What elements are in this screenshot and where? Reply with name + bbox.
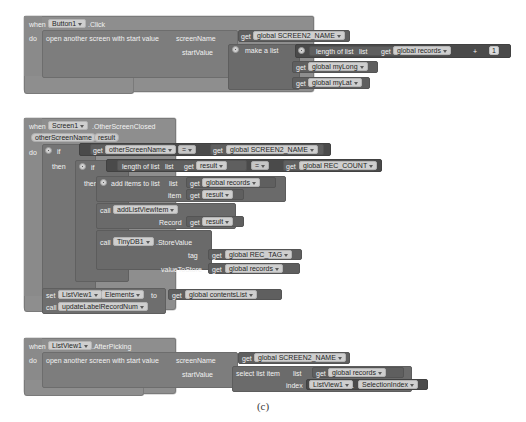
- block2-addlistviewitem-result-label: result: [206, 217, 223, 226]
- block2-set-to-label: to: [151, 291, 157, 300]
- mutator-gear-icon[interactable]: [298, 47, 305, 54]
- block1-when-label: when: [29, 20, 46, 29]
- block3-records-dropdown[interactable]: global records: [328, 368, 386, 377]
- block1-component-dropdown[interactable]: Button1: [48, 19, 86, 28]
- block2-when-label: when: [29, 122, 46, 131]
- block2-screen2name-dropdown[interactable]: global SCREEN2_NAME: [226, 145, 318, 154]
- block2-update-call-label: call: [46, 303, 57, 312]
- block2-contentslist-dropdown[interactable]: global contentsList: [185, 290, 257, 299]
- block2-additems-records-dropdown[interactable]: global records: [202, 178, 260, 187]
- mutator-gear-icon[interactable]: [232, 46, 239, 53]
- block3-screen2name-get-label: get: [242, 354, 252, 363]
- block1-component-label: Button1: [52, 19, 76, 28]
- block3-event-label: .AfterPicking: [92, 342, 131, 351]
- block2-addlistviewitem-result-dropdown[interactable]: result: [202, 217, 233, 226]
- block2-tinydb-call-label: call: [100, 238, 111, 247]
- block2-call-addlistviewitem-label: call: [100, 206, 111, 215]
- chevron-down-icon: [310, 149, 314, 152]
- mutator-gear-icon[interactable]: [79, 163, 86, 170]
- block2-otherscreenname-dropdown[interactable]: otherScreenName: [105, 145, 176, 154]
- block3-component-dropdown[interactable]: ListView1: [48, 341, 92, 350]
- block1-mylong-dropdown[interactable]: global myLong: [308, 62, 368, 71]
- chevron-down-icon: [170, 209, 174, 212]
- chevron-down-icon: [261, 165, 265, 168]
- block1-mylat-label: global myLat: [312, 78, 352, 87]
- chevron-down-icon: [360, 66, 364, 69]
- block2-param-result[interactable]: result: [94, 133, 119, 142]
- chevron-down-icon: [338, 357, 342, 360]
- block2-set-component-dropdown[interactable]: ListView1: [58, 290, 102, 299]
- block2-tinydb-component-label: TinyDB1: [117, 237, 144, 246]
- block3-statement-label: open another screen with start value: [46, 356, 159, 365]
- block3-records-label: global records: [332, 368, 376, 377]
- block2-set-property-dropdown[interactable]: Elements: [101, 290, 144, 299]
- mutator-gear-icon[interactable]: [45, 147, 52, 154]
- block1-records-label: global records: [397, 46, 441, 55]
- block2-reccount-get-label: get: [286, 162, 296, 171]
- block1-records-dropdown[interactable]: global records: [393, 46, 451, 55]
- chevron-down-icon: [140, 306, 144, 309]
- block1-mylat-dropdown[interactable]: global myLat: [308, 78, 362, 87]
- block2-component-dropdown[interactable]: Screen1: [48, 121, 88, 130]
- block2-otherscreenname-get-label: get: [93, 146, 103, 155]
- block2-result-dropdown[interactable]: result: [196, 161, 227, 170]
- block2-screen2name-get-label: get: [213, 146, 223, 155]
- block2-tinydb-rectag-dropdown[interactable]: global REC_TAG: [225, 250, 292, 259]
- block2-outer-if-label: if: [57, 147, 61, 156]
- block2-set-component-label: ListView1: [62, 290, 92, 299]
- block2-tinydb-records-label: global records: [229, 264, 273, 273]
- chevron-down-icon: [337, 35, 341, 38]
- block1-mylat-get-label: get: [296, 79, 306, 88]
- block2-tinydb-records-get-label: get: [212, 265, 222, 274]
- block3-index-dot-label: .: [352, 381, 354, 390]
- block2-call-tinydb-storevalue-block[interactable]: [96, 230, 212, 270]
- block2-event-label: .OtherScreenClosed: [92, 122, 155, 131]
- block2-tinydb-component-dropdown[interactable]: TinyDB1: [113, 237, 154, 246]
- block2-addlistviewitem-name: addListViewItem: [117, 205, 168, 214]
- chevron-down-icon: [188, 149, 192, 152]
- chevron-down-icon: [443, 50, 447, 53]
- block2-reccount-dropdown[interactable]: global REC_COUNT: [299, 161, 377, 170]
- block2-result-get-label: get: [184, 162, 194, 171]
- block2-contentslist-get-label: get: [172, 291, 182, 300]
- block2-tinydb-tag-label: tag: [188, 251, 198, 260]
- block2-additems-result-dropdown[interactable]: result: [202, 190, 233, 199]
- block3-index-component-dropdown[interactable]: ListView1: [309, 380, 353, 389]
- block1-get-label: get: [241, 32, 251, 41]
- block3-screen2name-label: global SCREEN2_NAME: [258, 353, 336, 362]
- chevron-down-icon: [284, 254, 288, 257]
- block3-select-list-item-label: select list item: [236, 369, 280, 378]
- block2-cond1-operator-dropdown[interactable]: =: [178, 145, 196, 154]
- chevron-down-icon: [369, 165, 373, 168]
- chevron-down-icon: [378, 372, 382, 375]
- chevron-down-icon: [94, 294, 98, 297]
- chevron-down-icon: [252, 182, 256, 185]
- block2-screen2name-label: global SCREEN2_NAME: [230, 145, 308, 154]
- chevron-down-icon: [146, 241, 150, 244]
- block2-result-label: result: [200, 161, 217, 170]
- block2-addlistviewitem-dropdown[interactable]: addListViewItem: [113, 205, 178, 214]
- chevron-down-icon: [84, 345, 88, 348]
- block1-statement-label: open another screen with start value: [46, 34, 159, 43]
- block3-index-property-dropdown[interactable]: SelectionIndex: [358, 380, 418, 389]
- mutator-gear-icon[interactable]: [100, 179, 107, 186]
- block3-component-label: ListView1: [52, 341, 82, 350]
- block2-outer-then-label: then: [52, 162, 66, 171]
- chevron-down-icon: [345, 384, 349, 387]
- block2-otherscreenname-label: otherScreenName: [109, 145, 166, 154]
- block1-length-of-list-label: length of list: [316, 47, 353, 56]
- block2-tinydb-method-label: .StoreValue: [156, 238, 192, 247]
- block2-tinydb-records-dropdown[interactable]: global records: [225, 264, 283, 273]
- block2-inner-if-label: if: [91, 163, 95, 172]
- chevron-down-icon: [78, 23, 82, 26]
- block2-update-procedure-dropdown[interactable]: updateLabelRecordNum: [58, 302, 148, 311]
- block3-screen2name-dropdown[interactable]: global SCREEN2_NAME: [254, 353, 346, 362]
- chevron-down-icon: [410, 384, 414, 387]
- block2-additems-records-get-label: get: [190, 179, 200, 188]
- block1-number-one[interactable]: 1: [489, 46, 499, 55]
- block2-cond2-operator-dropdown[interactable]: =: [251, 161, 269, 170]
- block2-param-otherscreenname[interactable]: otherScreenName: [31, 133, 96, 142]
- block3-do-label: do: [29, 356, 37, 365]
- block1-screen2name-dropdown[interactable]: global SCREEN2_NAME: [253, 31, 345, 40]
- block2-set-property-label: Elements: [105, 290, 134, 299]
